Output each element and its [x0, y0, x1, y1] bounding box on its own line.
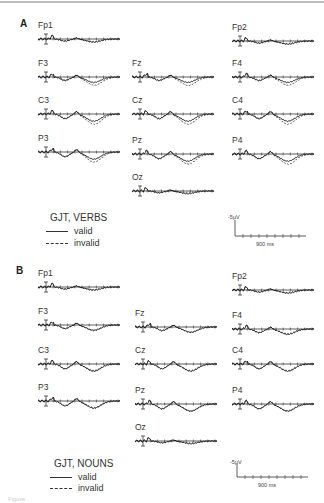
erp-trace-f3: [38, 317, 120, 339]
panel-label-b: B: [16, 265, 23, 276]
erp-trace-c4: [232, 356, 314, 378]
electrode-label-c3: C3: [38, 95, 49, 105]
legend-title-b: GJT, NOUNS: [54, 458, 113, 469]
electrode-label-fp2: Fp2: [232, 22, 247, 32]
electrode-label-f3: F3: [38, 306, 48, 316]
erp-trace-oz: [132, 183, 214, 205]
erp-trace-fz: [132, 69, 214, 91]
solid-line-icon: [50, 477, 72, 478]
electrode-label-oz: Oz: [132, 172, 143, 182]
electrode-label-pz: Pz: [132, 135, 142, 145]
electrode-label-fz: Fz: [132, 58, 141, 68]
legend-valid-label: valid: [78, 472, 97, 482]
legend-invalid-label: invalid: [74, 238, 100, 248]
erp-trace-pz: [132, 146, 214, 168]
erp-trace-c3: [38, 106, 120, 128]
solid-line-icon: [46, 231, 68, 232]
erp-trace-fz: [135, 319, 217, 341]
scale-amplitude-b: -5μV: [230, 459, 242, 465]
erp-trace-cz: [135, 356, 217, 378]
erp-trace-f3: [38, 69, 120, 91]
legend-valid-b: valid: [50, 472, 97, 482]
electrode-label-f3: F3: [38, 58, 48, 68]
electrode-label-fp2: Fp2: [232, 271, 247, 281]
erp-trace-f4: [232, 321, 314, 343]
electrode-label-p3: P3: [38, 133, 48, 143]
electrode-label-pz: Pz: [135, 385, 145, 395]
electrode-label-cz: Cz: [135, 345, 145, 355]
panel-label-a: A: [20, 18, 27, 29]
figure-caption: Figure: [8, 496, 25, 502]
erp-trace-f4: [232, 69, 314, 91]
erp-trace-oz: [135, 433, 217, 455]
legend-valid-label: valid: [74, 226, 93, 236]
scale-time-a: 900 ms: [256, 241, 274, 247]
legend-title-a: GJT, VERBS: [50, 212, 107, 223]
erp-trace-fp1: [38, 279, 120, 301]
top-rule: [0, 1, 324, 3]
legend-invalid-a: invalid: [46, 238, 100, 248]
legend-invalid-label: invalid: [78, 483, 104, 493]
erp-trace-p3: [38, 144, 120, 166]
legend-valid-a: valid: [46, 226, 93, 236]
erp-trace-cz: [132, 106, 214, 128]
legend-invalid-b: invalid: [50, 483, 104, 493]
erp-trace-p4: [232, 146, 314, 168]
electrode-label-c4: C4: [232, 345, 243, 355]
electrode-label-f4: F4: [232, 58, 242, 68]
erp-trace-p3: [38, 393, 120, 415]
erp-trace-fp2: [232, 282, 314, 304]
electrode-label-p4: P4: [232, 385, 242, 395]
erp-trace-c3: [38, 356, 120, 378]
erp-trace-pz: [135, 396, 217, 418]
electrode-label-c4: C4: [232, 95, 243, 105]
electrode-label-oz: Oz: [135, 422, 146, 432]
electrode-label-fp1: Fp1: [38, 268, 53, 278]
electrode-label-p4: P4: [232, 135, 242, 145]
erp-trace-c4: [232, 106, 314, 128]
erp-trace-fp1: [38, 31, 120, 53]
dashed-line-icon: [50, 488, 72, 489]
erp-trace-fp2: [232, 33, 314, 55]
dashed-line-icon: [46, 243, 68, 244]
electrode-label-cz: Cz: [132, 95, 142, 105]
electrode-label-fz: Fz: [135, 308, 144, 318]
electrode-label-c3: C3: [38, 345, 49, 355]
electrode-label-p3: P3: [38, 382, 48, 392]
electrode-label-f4: F4: [232, 310, 242, 320]
scale-amplitude-a: -5μV: [228, 214, 240, 220]
scale-time-b: 900 ms: [258, 482, 276, 488]
erp-trace-p4: [232, 396, 314, 418]
electrode-label-fp1: Fp1: [38, 20, 53, 30]
